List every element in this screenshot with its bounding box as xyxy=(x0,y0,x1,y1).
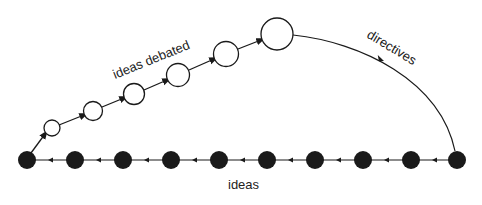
filled-node xyxy=(18,151,36,169)
open-node xyxy=(124,84,145,105)
ideas-chain xyxy=(18,151,466,169)
directives-label: directives xyxy=(364,27,419,68)
filled-node xyxy=(210,151,228,169)
ideas-label: ideas xyxy=(228,177,260,192)
arrowhead-icon xyxy=(377,55,385,62)
open-node xyxy=(44,120,60,136)
filled-node xyxy=(306,151,324,169)
directives-arc xyxy=(293,35,455,151)
open-node xyxy=(261,18,293,50)
filled-node xyxy=(114,151,132,169)
ideas-debated-chain xyxy=(31,18,293,153)
filled-node xyxy=(258,151,276,169)
filled-node xyxy=(402,151,420,169)
open-node xyxy=(214,42,239,67)
filled-node xyxy=(354,151,372,169)
open-node xyxy=(84,102,103,121)
filled-node xyxy=(162,151,180,169)
filled-node xyxy=(66,151,84,169)
filled-node xyxy=(448,151,466,169)
open-node xyxy=(167,64,190,87)
flow-diagram: ideas debated directives ideas xyxy=(0,0,482,205)
open-nodes xyxy=(44,18,293,136)
